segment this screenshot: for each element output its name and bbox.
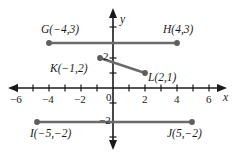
point-i <box>34 119 40 125</box>
y-axis <box>109 8 117 150</box>
point-label-j: J(5,−2) <box>167 128 202 140</box>
x-tick-label-6: 6 <box>206 94 212 105</box>
x-tick-label-0: 0 <box>106 92 112 103</box>
x-tick-label-minus-6: −6 <box>10 94 22 105</box>
point-label-g: G(−4,3) <box>41 24 79 36</box>
point-h <box>174 40 180 46</box>
y-axis-label: y <box>120 14 125 26</box>
y-tick-label-minus-2: −2 <box>99 115 111 126</box>
segment-ij <box>34 119 195 125</box>
point-label-i: I(−5,−2) <box>30 128 71 140</box>
y-tick-label-2: 2 <box>103 51 109 62</box>
point-g <box>46 40 52 46</box>
x-axis <box>8 84 227 92</box>
y-axis-top-arrow <box>109 8 117 18</box>
x-tick-label-minus-4: −4 <box>42 94 54 105</box>
point-label-h: H(4,3) <box>163 24 193 36</box>
coordinate-plane-figure: y x −6 −4 −2 0 2 4 6 2 −2 G(−4,3) H(4,3)… <box>0 0 235 153</box>
x-tick-label-4: 4 <box>174 94 180 105</box>
x-tick-label-minus-2: −2 <box>74 94 86 105</box>
point-label-k: K(−1,2) <box>50 63 87 75</box>
point-j <box>189 119 195 125</box>
point-label-l: L(2,1) <box>148 72 176 84</box>
x-axis-label: x <box>223 92 228 104</box>
x-tick-label-2: 2 <box>142 94 148 105</box>
y-axis-bottom-arrow <box>109 140 117 150</box>
